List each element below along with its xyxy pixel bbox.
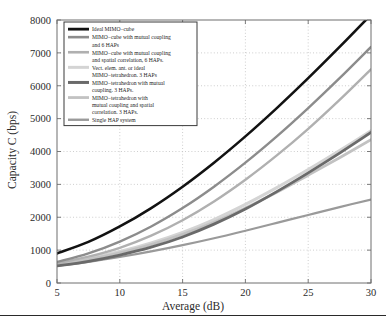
legend-entry-label: MIMO−cube with mutual coupling <box>92 34 171 40</box>
y-tick-label: 1000 <box>30 245 51 256</box>
bottom-divider-rule <box>0 315 386 316</box>
y-tick-label: 6000 <box>30 81 51 92</box>
y-axis-tick-labels: 010002000300040005000600070008000 <box>30 15 51 289</box>
legend-entry-label: and 6 HAPs <box>92 42 119 48</box>
legend-entry-label: MIMO−tetrahedron. 3 HAPs <box>92 72 157 78</box>
legend-entry-label: Ideal MIMO−cube <box>92 26 135 32</box>
legend-entry-label: and spatial correlation, 6 HAPs. <box>92 57 164 63</box>
legend-entry-label: coupling. 3 HAPs. <box>92 87 134 93</box>
legend-entry-label: Vect. elem. ant. or ideal <box>92 65 145 71</box>
legend-entry-label: mutual coupling and spatial <box>92 102 154 108</box>
data-series-line <box>57 131 371 263</box>
legend-entry-label: MIMO−tetrahedron with mutual <box>92 80 165 86</box>
legend-entry-label: MIMO−tetrahedron with <box>92 95 148 101</box>
x-tick-label: 15 <box>177 287 188 298</box>
x-tick-label: 20 <box>240 287 251 298</box>
x-axis-tick-labels: 51015202530 <box>54 287 376 298</box>
x-tick-label: 5 <box>54 287 59 298</box>
y-tick-label: 3000 <box>30 179 51 190</box>
y-tick-label: 0 <box>46 278 51 289</box>
y-tick-label: 7000 <box>30 48 51 59</box>
x-tick-label: 25 <box>303 287 314 298</box>
legend-entry-label: Single HAP system <box>92 117 136 123</box>
y-tick-label: 8000 <box>30 15 51 26</box>
figure-container: 51015202530 0100020003000400050006000700… <box>0 0 386 325</box>
y-tick-label: 2000 <box>30 212 51 223</box>
y-tick-label: 4000 <box>30 146 51 157</box>
x-axis-title: Average (dB) <box>162 300 224 313</box>
legend-entry-label: MIMO−cube with mutual coupling <box>92 50 171 56</box>
chart-legend: Ideal MIMO−cubeMIMO−cube with mutual cou… <box>64 22 197 126</box>
legend-entry-label: correlation. 3 HAPs. <box>92 109 139 115</box>
y-axis-title: Capacity C (bps) <box>6 111 19 189</box>
data-series-line <box>57 132 371 265</box>
x-tick-label: 30 <box>366 287 377 298</box>
x-tick-label: 10 <box>115 287 126 298</box>
capacity-vs-average-line-chart: 51015202530 0100020003000400050006000700… <box>0 0 386 325</box>
y-tick-label: 5000 <box>30 113 51 124</box>
